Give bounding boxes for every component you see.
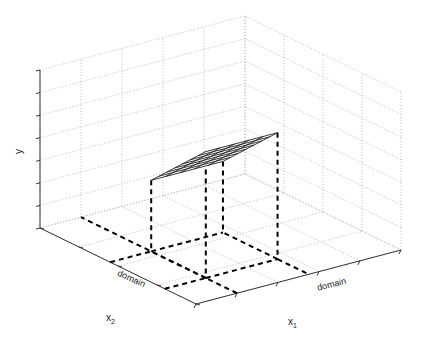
surface-mesh xyxy=(151,133,277,181)
x1-axis-label: x1 xyxy=(288,316,297,329)
y-axis-label: y xyxy=(13,149,24,154)
x2-axis-label: x2 xyxy=(106,312,115,325)
axes xyxy=(36,70,401,308)
plot-3d xyxy=(0,0,424,344)
projection-lines xyxy=(81,133,309,294)
